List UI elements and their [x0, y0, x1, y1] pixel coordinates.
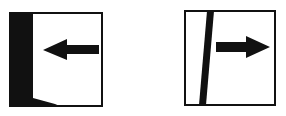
right-panel — [185, 11, 275, 105]
diagram-canvas — [0, 0, 286, 116]
left-panel — [9, 12, 102, 107]
right-panel-frame — [185, 11, 275, 105]
